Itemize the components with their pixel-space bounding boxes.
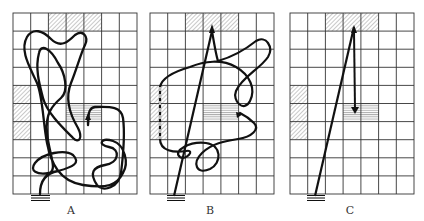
panel-a (13, 13, 137, 194)
shade-left (13, 85, 31, 139)
path-b-return (160, 31, 270, 171)
start-marker-b (167, 196, 185, 201)
panel-c (290, 13, 414, 196)
panel-label-c: C (340, 204, 360, 217)
path-c-down (354, 31, 355, 109)
shade-left (150, 85, 168, 139)
grid-a (13, 13, 137, 194)
panel-label-b: B (200, 204, 220, 217)
start-marker-a (31, 196, 50, 201)
start-markers (31, 196, 325, 201)
figure-canvas (0, 0, 424, 221)
shade-top (48, 13, 101, 31)
shade-top (325, 13, 378, 31)
panel-label-a: A (61, 204, 81, 217)
panel-b (150, 13, 274, 196)
shade-left (290, 85, 308, 139)
start-marker-c (307, 196, 325, 201)
